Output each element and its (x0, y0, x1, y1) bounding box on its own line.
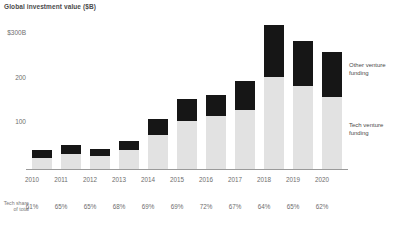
x-axis-label-2019: 2019 (278, 176, 308, 183)
tech-share-2010: 61% (17, 203, 47, 210)
y-axis-tick-100: 100 (0, 118, 26, 126)
legend-tech-label-line1: Tech venture (349, 122, 407, 130)
bar-2014[interactable] (148, 119, 168, 170)
x-axis-label-2013: 2013 (104, 176, 134, 183)
bar-2015-tech-segment (177, 121, 197, 170)
bar-2010-other-segment (32, 150, 52, 158)
bar-2011-tech-segment (61, 154, 81, 170)
legend-other-label-line2: funding (349, 70, 407, 78)
tech-share-2014: 69% (133, 203, 163, 210)
bar-2015-other-segment (177, 99, 197, 121)
x-axis-label-2015: 2015 (162, 176, 192, 183)
bar-2012[interactable] (90, 149, 110, 170)
bar-2019[interactable] (293, 41, 313, 170)
bar-2017-other-segment (235, 81, 255, 110)
chart-title: Global investment value ($B) (4, 3, 96, 10)
tech-share-2013: 68% (104, 203, 134, 210)
x-axis-label-2016: 2016 (191, 176, 221, 183)
bar-2012-tech-segment (90, 156, 110, 170)
x-axis-label-2020: 2020 (307, 176, 337, 183)
x-axis-line (26, 169, 348, 170)
bar-2011-other-segment (61, 145, 81, 154)
plot-area (30, 18, 345, 170)
chart-container: Global investment value ($B) $300B 200 1… (0, 0, 409, 231)
bar-2016-other-segment (206, 95, 226, 116)
bar-2013[interactable] (119, 141, 139, 170)
legend-other-label-line1: Other venture (349, 62, 407, 70)
bar-2013-tech-segment (119, 150, 139, 170)
tech-share-2019: 65% (278, 203, 308, 210)
bar-2020[interactable] (322, 52, 342, 170)
tech-share-2011: 65% (46, 203, 76, 210)
bar-2018[interactable] (264, 25, 284, 170)
bar-2016-tech-segment (206, 116, 226, 170)
tech-share-2016: 72% (191, 203, 221, 210)
bar-2020-tech-segment (322, 97, 342, 170)
bar-2014-other-segment (148, 119, 168, 135)
tech-share-2015: 69% (162, 203, 192, 210)
tech-share-2017: 67% (220, 203, 250, 210)
legend-tech-label-line2: funding (349, 130, 407, 138)
bar-2019-tech-segment (293, 86, 313, 170)
legend-other-venture-funding: Other venture funding (349, 62, 407, 77)
bar-2018-tech-segment (264, 77, 284, 170)
bar-2015[interactable] (177, 99, 197, 170)
x-axis-label-2018: 2018 (249, 176, 279, 183)
y-axis-tick-200: 200 (0, 74, 26, 82)
tech-share-2018: 64% (249, 203, 279, 210)
bar-2016[interactable] (206, 95, 226, 170)
legend-tech-venture-funding: Tech venture funding (349, 122, 407, 137)
bar-2013-other-segment (119, 141, 139, 150)
bar-2012-other-segment (90, 149, 110, 156)
bar-2010[interactable] (32, 150, 52, 170)
x-axis-label-2010: 2010 (17, 176, 47, 183)
bar-2020-other-segment (322, 52, 342, 97)
tech-share-2012: 65% (75, 203, 105, 210)
bar-2011[interactable] (61, 145, 81, 170)
bar-2014-tech-segment (148, 135, 168, 170)
bar-2017-tech-segment (235, 110, 255, 170)
bar-2017[interactable] (235, 81, 255, 170)
x-axis-label-2014: 2014 (133, 176, 163, 183)
x-axis-label-2011: 2011 (46, 176, 76, 183)
y-axis-tick-300: $300B (0, 29, 26, 37)
bar-2019-other-segment (293, 41, 313, 86)
tech-share-2020: 62% (307, 203, 337, 210)
x-axis-label-2012: 2012 (75, 176, 105, 183)
x-axis-label-2017: 2017 (220, 176, 250, 183)
bar-2018-other-segment (264, 25, 284, 77)
